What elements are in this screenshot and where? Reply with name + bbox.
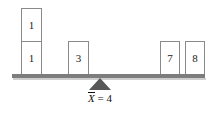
mean-variable-symbol: X	[88, 92, 95, 105]
fulcrum-triangle-icon	[89, 78, 111, 90]
weight-box-label: 1	[29, 20, 35, 31]
balance-beam-diagram: 1 1 3 7 8 X = 4	[0, 0, 215, 117]
mean-label: X = 4	[62, 92, 138, 105]
mean-value: 4	[106, 92, 112, 104]
weight-box-3: 3	[68, 41, 89, 75]
weight-box-1-bottom: 1	[21, 41, 42, 75]
weight-box-label: 1	[29, 53, 35, 64]
weight-box-label: 7	[167, 53, 173, 64]
weight-box-1-top: 1	[21, 8, 42, 42]
weight-box-7: 7	[160, 41, 180, 75]
weight-box-label: 8	[192, 53, 198, 64]
weight-box-label: 3	[76, 53, 82, 64]
weight-box-8: 8	[185, 41, 205, 75]
